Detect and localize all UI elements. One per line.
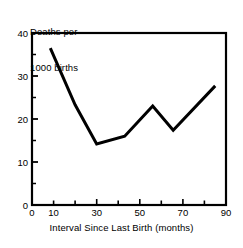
data-series-line: [50, 48, 215, 144]
plot-area: 0 10 20 30 40 0 10 30 50 70 90: [0, 0, 243, 248]
y-tick-label-40: 40: [17, 28, 28, 39]
x-tick-label-30: 30: [91, 207, 102, 218]
x-axis-title: Interval Since Last Birth (months): [0, 222, 243, 233]
y-axis-tick-labels: 0 10 20 30 40: [17, 28, 28, 211]
x-tick-label-90: 90: [221, 207, 232, 218]
x-tick-label-50: 50: [135, 207, 146, 218]
chart-figure: Deaths per 1000 births: [0, 0, 243, 248]
y-tick-label-10: 10: [17, 157, 28, 168]
x-tick-label-70: 70: [178, 207, 189, 218]
y-tick-label-0: 0: [23, 200, 28, 211]
plot-frame: [32, 33, 226, 205]
y-tick-label-20: 20: [17, 114, 28, 125]
x-tick-label-10: 10: [48, 207, 59, 218]
y-tick-label-30: 30: [17, 71, 28, 82]
x-tick-label-0: 0: [29, 207, 34, 218]
x-axis-tick-labels: 0 10 30 50 70 90: [29, 207, 231, 218]
